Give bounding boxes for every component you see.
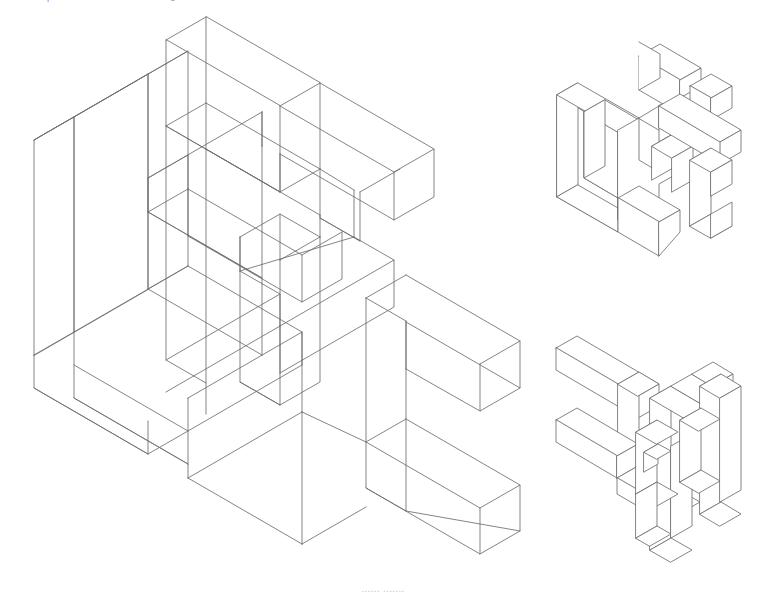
secondary-isometric-solid-upper	[540, 42, 755, 267]
wireframe-edges	[34, 17, 520, 554]
main-isometric-wireframe	[18, 22, 538, 567]
bottom-clipped-caption: ...... .......	[0, 583, 766, 596]
solid-faces-lower	[556, 336, 741, 562]
secondary-isometric-solid-lower	[540, 312, 755, 554]
solid-faces-upper	[557, 42, 741, 256]
